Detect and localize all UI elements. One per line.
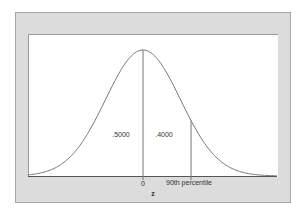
middle-area-label: .4000 xyxy=(155,131,173,138)
normal-curve-plot xyxy=(0,0,308,213)
percentile-label: 90th percentile xyxy=(166,179,212,186)
x-axis-label: z xyxy=(151,190,155,197)
normal-curve xyxy=(28,50,277,176)
zero-tick-label: 0 xyxy=(141,180,145,187)
left-area-label: .5000 xyxy=(112,131,130,138)
